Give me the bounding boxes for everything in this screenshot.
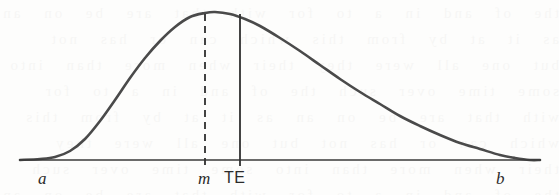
density-curve-group bbox=[20, 12, 540, 160]
axis-tick-label-m: m bbox=[198, 170, 210, 187]
axis-tick-label-te: TE bbox=[224, 170, 245, 186]
distribution-chart bbox=[0, 0, 559, 195]
marker-group bbox=[205, 14, 240, 166]
figure-container: the of and in a to for with that are be … bbox=[0, 0, 559, 195]
axis-tick-label-b: b bbox=[496, 170, 505, 187]
density-curve bbox=[20, 12, 540, 160]
axis-tick-label-a: a bbox=[38, 170, 47, 187]
